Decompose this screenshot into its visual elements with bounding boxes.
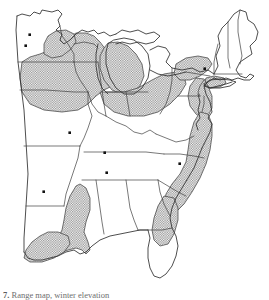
outline-western-edge xyxy=(16,16,28,252)
locality-dot-ky xyxy=(103,151,106,154)
locality-dot-nc xyxy=(178,162,181,165)
locality-dot-ar xyxy=(42,190,45,193)
locality-dot-ny xyxy=(203,67,206,70)
outline-new-england xyxy=(214,10,258,80)
range-louisiana-lobe xyxy=(24,232,70,262)
border-ky-oh xyxy=(106,116,156,134)
outline-lake-superior xyxy=(116,30,160,44)
border-wv-va xyxy=(156,134,194,142)
locality-dot-mo xyxy=(68,131,71,134)
distribution-map xyxy=(0,0,269,282)
border-ky-tn xyxy=(84,152,164,154)
figure-caption-number: 7. xyxy=(3,290,9,300)
border-vt-nh xyxy=(228,22,230,68)
range-hudson-valley xyxy=(174,56,212,80)
border-al-ga xyxy=(126,180,138,230)
border-nh-me xyxy=(238,10,242,64)
map-svg xyxy=(0,0,269,282)
figure-caption-text: Range map, winter elevation xyxy=(12,290,110,300)
border-ms-al xyxy=(96,180,104,234)
locality-dot-mn-north xyxy=(28,33,31,36)
figure-caption: 7. Range map, winter elevation xyxy=(3,290,265,300)
locality-dot-mn-south xyxy=(24,44,27,47)
range-coastal-va-carolinas xyxy=(164,112,212,212)
locality-dot-tn xyxy=(105,171,108,174)
